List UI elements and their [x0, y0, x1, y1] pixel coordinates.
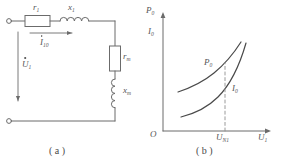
input-terminal-bottom — [7, 119, 12, 124]
chart-y-axis-label-secondary: I0 — [148, 27, 154, 36]
chart-diagram — [161, 12, 271, 133]
chart-y-axis-arrow — [161, 12, 166, 18]
chart-x-axis-label: U1 — [258, 133, 267, 142]
figure-canvas — [0, 0, 283, 165]
voltage-arrow-u1 — [16, 32, 20, 101]
label-xm: xm — [123, 86, 131, 95]
input-terminal-top — [7, 19, 12, 24]
label-x1: x1 — [68, 3, 75, 12]
circuit-diagram — [7, 16, 121, 124]
figure-root: r1 x1 rm xm I10 U1 ( a ) P0 I0 O P0 I0 U… — [0, 0, 283, 165]
label-r1: r1 — [33, 3, 39, 12]
shunt-inductor-xm — [111, 79, 115, 108]
curve-label-p0: P0 — [204, 58, 212, 67]
series-resistor-r1 — [25, 16, 50, 27]
chart-origin-label: O — [150, 130, 157, 139]
series-inductor-x1 — [60, 17, 89, 21]
curve-i0 — [181, 43, 246, 117]
chart-rated-voltage-label: UN1 — [216, 133, 229, 142]
shunt-resistor-rm — [110, 46, 121, 71]
label-current-i10: I10 — [40, 38, 49, 47]
current-arrow-i10 — [30, 31, 72, 35]
caption-b: ( b ) — [196, 146, 213, 156]
curve-label-i0: I0 — [232, 84, 238, 93]
label-rm: rm — [123, 52, 131, 61]
chart-y-axis-label: P0 — [146, 6, 154, 15]
label-voltage-u1: U1 — [22, 60, 31, 69]
caption-a: ( a ) — [49, 146, 65, 156]
